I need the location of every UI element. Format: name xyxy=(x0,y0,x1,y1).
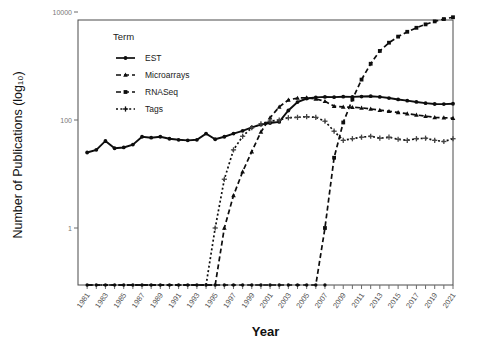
x-tick-label: 2015 xyxy=(386,291,403,310)
data-point xyxy=(124,90,128,94)
series-line xyxy=(87,98,453,285)
data-point xyxy=(204,132,208,136)
baseline-point xyxy=(131,283,134,286)
x-tick-label: 1993 xyxy=(185,291,202,310)
data-point xyxy=(122,146,126,150)
baseline-point xyxy=(85,283,88,286)
x-tick-label: 2007 xyxy=(313,291,330,310)
data-point xyxy=(232,132,236,136)
legend-label: RNASeq xyxy=(145,87,178,97)
baseline-point xyxy=(323,283,326,286)
baseline-point xyxy=(113,283,116,286)
x-tick-label: 2019 xyxy=(422,291,439,310)
plot-frame xyxy=(78,20,453,285)
x-tick-label: 2017 xyxy=(404,291,421,310)
baseline-point xyxy=(140,283,143,286)
data-point xyxy=(332,156,336,160)
legend-item-rnaseq[interactable]: RNASeq xyxy=(116,87,178,97)
data-point xyxy=(405,30,409,34)
data-point xyxy=(140,135,144,139)
data-point xyxy=(113,146,117,150)
x-tick-label: 2013 xyxy=(368,291,385,310)
data-point xyxy=(222,226,227,230)
data-point xyxy=(186,138,190,142)
x-tick-label: 1997 xyxy=(221,291,238,310)
series-line xyxy=(87,117,453,285)
data-point xyxy=(296,100,300,104)
baseline-point xyxy=(296,283,299,286)
baseline-point xyxy=(195,283,198,286)
baseline-point xyxy=(177,283,180,286)
baseline-point xyxy=(95,283,98,286)
data-point xyxy=(424,22,428,26)
baseline-point xyxy=(159,283,162,286)
data-point xyxy=(415,26,419,30)
legend-item-est[interactable]: EST xyxy=(116,53,162,63)
x-tick-label: 1983 xyxy=(93,291,110,310)
x-tick-label: 2003 xyxy=(276,291,293,310)
baseline-point xyxy=(241,283,244,286)
legend-label: EST xyxy=(145,53,162,63)
data-point xyxy=(396,98,400,102)
data-point xyxy=(387,41,391,45)
baseline-point xyxy=(149,283,152,286)
baseline-point xyxy=(213,283,216,286)
legend-item-tags[interactable]: Tags xyxy=(116,104,163,114)
data-point xyxy=(433,19,437,23)
series-line xyxy=(87,17,453,285)
legend-label: Microarrays xyxy=(145,70,189,80)
data-point xyxy=(195,138,199,142)
baseline-point xyxy=(287,283,290,286)
legend-item-microarrays[interactable]: Microarrays xyxy=(116,70,189,80)
data-point xyxy=(405,99,409,103)
y-tick-label: 1 xyxy=(68,225,72,232)
baseline-point xyxy=(104,283,107,286)
data-point xyxy=(323,226,327,230)
data-point xyxy=(231,193,236,197)
data-point xyxy=(104,139,108,143)
data-point xyxy=(451,102,455,106)
data-point xyxy=(241,129,245,133)
x-tick-label: 2021 xyxy=(441,291,458,310)
series-tags xyxy=(87,114,455,285)
y-axis: 110010000 xyxy=(53,9,78,232)
x-axis-title: Year xyxy=(252,324,279,339)
baseline-point xyxy=(186,283,189,286)
baseline-point xyxy=(259,283,262,286)
data-point xyxy=(332,95,336,99)
legend-title: Term xyxy=(113,31,134,42)
baseline-point xyxy=(314,283,317,286)
baseline-point xyxy=(168,283,171,286)
data-point xyxy=(387,96,391,100)
data-point xyxy=(433,102,437,106)
data-point xyxy=(323,95,327,99)
x-tick-label: 1999 xyxy=(239,291,256,310)
x-tick-label: 1991 xyxy=(166,291,183,310)
data-point xyxy=(415,100,419,104)
data-point xyxy=(424,101,428,105)
x-tick-label: 2009 xyxy=(331,291,348,310)
data-point xyxy=(131,143,135,147)
data-point xyxy=(396,35,400,39)
data-point xyxy=(369,94,373,98)
chart-canvas: 110010000Number of Publications (log₁₀)1… xyxy=(0,0,477,343)
x-tick-label: 2005 xyxy=(294,291,311,310)
legend-label: Tags xyxy=(145,104,163,114)
baseline-point xyxy=(223,283,226,286)
x-tick-label: 1981 xyxy=(75,291,92,310)
baseline-point xyxy=(305,283,308,286)
x-tick-label: 2011 xyxy=(350,291,367,309)
data-point xyxy=(360,95,364,99)
data-point xyxy=(341,121,345,125)
data-point xyxy=(360,78,364,82)
y-tick-label: 10000 xyxy=(53,9,73,16)
data-point xyxy=(323,99,328,103)
x-tick-label: 1995 xyxy=(203,291,220,310)
series-rnaseq xyxy=(87,15,455,285)
baseline-point xyxy=(122,283,125,286)
y-tick-label: 100 xyxy=(60,117,72,124)
x-tick-label: 2001 xyxy=(258,291,275,310)
data-point xyxy=(124,56,128,60)
data-point xyxy=(378,49,382,53)
data-point xyxy=(158,135,162,139)
